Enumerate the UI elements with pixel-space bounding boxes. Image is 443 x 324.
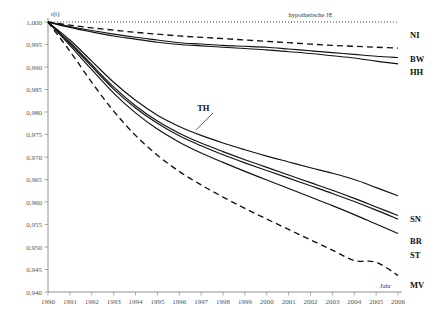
x-tick-label: 1996 (172, 298, 187, 306)
y-tick-label: 0,975 (26, 131, 42, 139)
x-tick-label: 1998 (216, 298, 231, 306)
y-tick-label: 0,970 (26, 154, 42, 162)
line-chart: 0,9400,9450,9500,9550,9600,9650,9700,975… (0, 0, 443, 324)
y-tick-label: 0,945 (26, 266, 42, 274)
x-tick-label: 2004 (347, 298, 362, 306)
x-tick-label: 2005 (369, 298, 384, 306)
series-label-mv: MV (410, 280, 425, 290)
annotation-hypothetische-je: hypothetische JE (288, 11, 332, 18)
series-curves: NIBWHHSNBRSTMV (48, 22, 425, 290)
y-axis-ticks: 0,9400,9450,9500,9550,9600,9650,9700,975… (26, 19, 48, 297)
series-line-th (48, 22, 398, 216)
x-tick-label: 1997 (194, 298, 209, 306)
x-tick-label: 1991 (63, 298, 78, 306)
x-tick-label: 1999 (238, 298, 253, 306)
x-axis-title: Jahr (380, 282, 392, 289)
series-line-mv (48, 22, 398, 275)
series-line-sn (48, 22, 398, 196)
x-axis-ticks: 1990199119921993199419951996199719981999… (41, 292, 406, 306)
x-tick-label: 1993 (107, 298, 122, 306)
y-tick-label: 0,990 (26, 64, 42, 72)
series-label-st: ST (410, 250, 421, 260)
x-tick-label: 1995 (150, 298, 165, 306)
x-tick-label: 2003 (325, 298, 340, 306)
x-tick-label: 2001 (282, 298, 297, 306)
series-line-bw (48, 22, 398, 58)
y-tick-label: 0,985 (26, 86, 42, 94)
y-tick-label: 0,995 (26, 41, 42, 49)
series-label-bw: BW (410, 54, 425, 64)
th-leader-line (196, 113, 213, 130)
series-line-ni (48, 22, 398, 48)
y-tick-label: 0,965 (26, 176, 42, 184)
y-tick-label: 0,980 (26, 109, 42, 117)
y-axis-title: r(t) (51, 10, 59, 18)
y-tick-label: 0,955 (26, 221, 42, 229)
x-tick-label: 2002 (304, 298, 319, 306)
series-label-sn: SN (410, 214, 422, 224)
series-label-hh: HH (410, 67, 424, 77)
x-tick-label: 1992 (85, 298, 100, 306)
y-tick-label: 0,950 (26, 244, 42, 252)
x-tick-label: 2000 (260, 298, 275, 306)
series-line-br (48, 22, 398, 219)
y-tick-label: 1,000 (26, 19, 42, 27)
x-tick-label: 1990 (41, 298, 56, 306)
chart-container: 0,9400,9450,9500,9550,9600,9650,9700,975… (0, 0, 443, 324)
series-label-ni: NI (410, 30, 420, 40)
x-tick-label: 2006 (391, 298, 406, 306)
annotations: hypothetische JETH (196, 11, 333, 130)
y-tick-label: 0,960 (26, 199, 42, 207)
annotation-th: TH (197, 103, 210, 113)
y-tick-label: 0,940 (26, 289, 42, 297)
x-tick-label: 1994 (129, 298, 144, 306)
series-label-br: BR (410, 236, 423, 246)
